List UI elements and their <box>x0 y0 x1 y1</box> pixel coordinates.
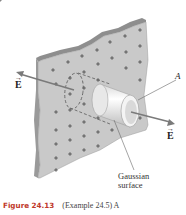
e-field-label-right: → E <box>167 130 174 141</box>
charged-plane-illustration <box>0 0 186 200</box>
gaussian-label-line2: surface <box>118 181 149 190</box>
e-field-label-left: → E <box>15 79 22 90</box>
gaussian-cylinder-figure: → E → E A Gaussian surface <box>0 0 186 200</box>
figure-number: Figure 24.13 <box>3 201 54 210</box>
vector-arrow-icon: → <box>15 74 22 82</box>
caption-text: (Example 24.5) A <box>62 201 119 210</box>
gaussian-surface-label: Gaussian surface <box>118 172 149 190</box>
area-label: A <box>175 71 181 81</box>
figure-caption: Figure 24.13(Example 24.5) A <box>3 201 119 210</box>
vector-arrow-icon: → <box>167 125 174 133</box>
